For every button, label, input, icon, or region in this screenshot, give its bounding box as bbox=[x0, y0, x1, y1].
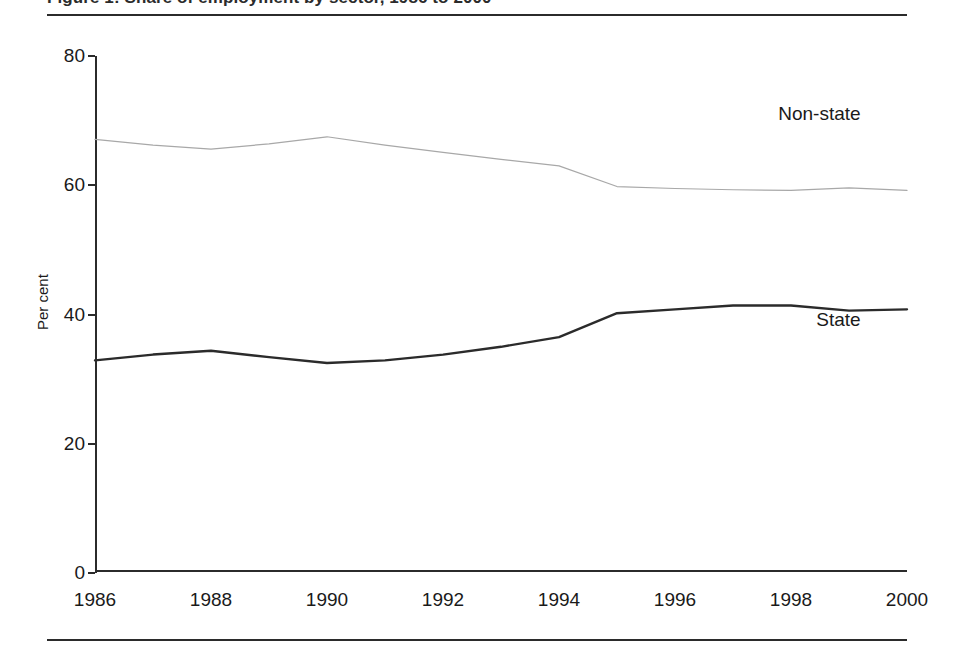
y-tick-mark bbox=[88, 184, 95, 186]
x-tick-label: 1996 bbox=[654, 589, 696, 611]
y-axis-label: Per cent bbox=[34, 274, 51, 330]
y-tick-mark bbox=[88, 572, 95, 574]
y-tick-mark bbox=[88, 314, 95, 316]
y-tick-mark bbox=[88, 443, 95, 445]
y-tick-label: 20 bbox=[64, 433, 85, 455]
series-label-non-state: Non-state bbox=[778, 103, 860, 125]
x-tick-label: 2000 bbox=[886, 589, 928, 611]
series-line-non-state bbox=[95, 137, 907, 191]
series-label-state: State bbox=[816, 309, 860, 331]
x-tick-label: 1998 bbox=[770, 589, 812, 611]
bottom-divider-rule bbox=[47, 639, 907, 641]
x-tick-label: 1988 bbox=[190, 589, 232, 611]
clipped-figure-title: Figure 1: Share of employment by sector,… bbox=[47, 0, 647, 10]
series-line-state bbox=[95, 305, 907, 363]
figure-container: Figure 1: Share of employment by sector,… bbox=[0, 0, 954, 657]
series-lines bbox=[95, 56, 907, 573]
y-tick-label: 60 bbox=[64, 174, 85, 196]
x-tick-label: 1986 bbox=[74, 589, 116, 611]
y-tick-mark bbox=[88, 55, 95, 57]
top-divider-rule bbox=[47, 14, 907, 16]
x-tick-label: 1994 bbox=[538, 589, 580, 611]
y-tick-label: 40 bbox=[64, 304, 85, 326]
y-tick-label: 80 bbox=[64, 45, 85, 67]
y-tick-label: 0 bbox=[74, 562, 85, 584]
plot-area: 020406080 198619881990199219941996199820… bbox=[95, 56, 907, 572]
x-tick-label: 1990 bbox=[306, 589, 348, 611]
x-tick-label: 1992 bbox=[422, 589, 464, 611]
